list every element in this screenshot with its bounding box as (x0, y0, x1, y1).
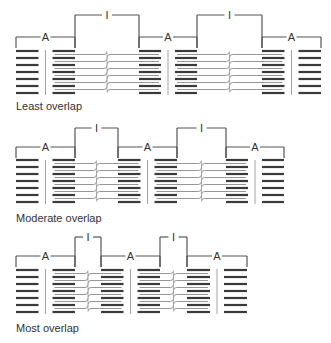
a-band-label: A (42, 250, 50, 262)
a-band-bracket: A (16, 141, 75, 204)
a-band-bracket: A (139, 31, 197, 95)
panel-most-overlap: AAAII (16, 231, 247, 314)
i-band-bracket: I (140, 231, 209, 312)
i-band-label: I (95, 122, 98, 134)
caption-most-overlap: Most overlap (16, 322, 79, 334)
i-band-bracket: I (55, 122, 139, 202)
a-band-label: A (164, 31, 172, 43)
a-band-bracket: A (16, 31, 75, 95)
a-band-label: A (127, 250, 135, 262)
a-band-label: A (144, 141, 152, 153)
i-band-label: I (200, 122, 203, 134)
caption-moderate-overlap: Moderate overlap (16, 212, 102, 224)
a-band-bracket: A (226, 141, 284, 204)
a-band-bracket: A (16, 250, 75, 314)
a-band-bracket: A (101, 250, 160, 314)
i-band-bracket: I (55, 231, 122, 312)
a-band-bracket: A (118, 141, 177, 204)
i-band-label: I (86, 231, 89, 243)
a-band-label: A (42, 31, 50, 43)
panel-moderate-overlap: AAAII (16, 122, 284, 204)
i-band-label: I (172, 231, 175, 243)
sarcomere-overlap-diagram: AAAIIAAAIIAAAII (0, 0, 331, 343)
a-band-bracket: A (187, 250, 247, 314)
a-band-label: A (213, 250, 221, 262)
a-band-bracket: A (262, 31, 321, 95)
i-band-bracket: I (157, 122, 247, 202)
panel-least-overlap: AAAII (16, 9, 321, 95)
i-band-label: I (228, 9, 231, 21)
a-band-label: A (288, 31, 296, 43)
i-band-label: I (105, 9, 108, 21)
a-band-label: A (42, 141, 50, 153)
a-band-label: A (251, 141, 259, 153)
caption-least-overlap: Least overlap (16, 100, 82, 112)
